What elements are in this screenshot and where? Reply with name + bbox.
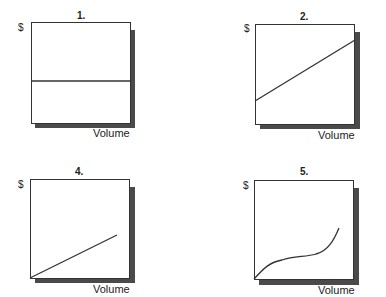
y-axis-label: $ bbox=[243, 181, 249, 191]
cost-line bbox=[30, 179, 130, 279]
y-axis-label: $ bbox=[244, 24, 250, 34]
panel-title: 4. bbox=[75, 167, 83, 177]
panel-title: 2. bbox=[300, 12, 308, 22]
panel-title: 5. bbox=[300, 167, 308, 177]
cost-line bbox=[255, 24, 355, 125]
x-axis-label: Volume bbox=[318, 130, 355, 141]
y-axis-label: $ bbox=[18, 180, 24, 190]
cost-curve bbox=[254, 180, 354, 280]
x-axis-label: Volume bbox=[93, 284, 130, 295]
chart-panel-5: 5. $ Volume bbox=[0, 0, 193, 150]
x-axis-label: Volume bbox=[318, 285, 355, 296]
